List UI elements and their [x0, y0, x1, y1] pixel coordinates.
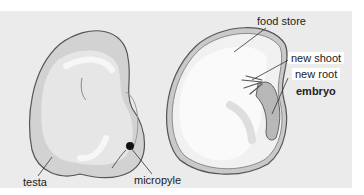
- label-embryo: embryo: [296, 85, 336, 97]
- label-food-store: food store: [257, 15, 306, 27]
- label-micropyle: micropyle: [134, 174, 181, 186]
- micropyle-dot: [126, 142, 134, 150]
- label-new-root: new root: [292, 68, 340, 80]
- seed-illustration: [0, 0, 364, 195]
- whole-seed: [30, 31, 152, 178]
- seed-section: [167, 28, 292, 175]
- label-testa: testa: [23, 176, 47, 188]
- label-new-shoot: new shoot: [288, 52, 344, 64]
